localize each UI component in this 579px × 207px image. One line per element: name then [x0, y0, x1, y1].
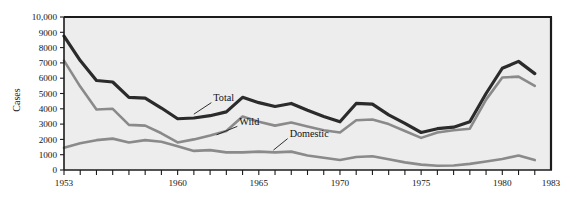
- y-axis-title-group: Cases: [11, 88, 22, 111]
- series-label-total: Total: [213, 92, 234, 103]
- series-label-domestic: Domestic: [290, 128, 330, 139]
- y-tick-label-10000: 10,000: [32, 12, 58, 22]
- x-tick-label-1960: 1960: [168, 178, 187, 188]
- x-tick-label-1970: 1970: [331, 178, 350, 188]
- y-tick-label-8000: 8000: [39, 43, 58, 53]
- y-axis-labels-group: 010002000300040005000600070008000900010,…: [32, 12, 58, 175]
- y-tick-label-3000: 3000: [39, 119, 58, 129]
- y-tick-label-2000: 2000: [39, 135, 58, 145]
- chart-figure: 010002000300040005000600070008000900010,…: [0, 0, 579, 207]
- y-tick-label-7000: 7000: [39, 58, 58, 68]
- plot-background-group: [64, 17, 552, 170]
- y-axis-title: Cases: [11, 88, 22, 111]
- y-tick-label-5000: 5000: [39, 89, 58, 99]
- y-tick-label-9000: 9000: [39, 28, 58, 38]
- plot-area-background: [64, 17, 552, 170]
- y-tick-label-4000: 4000: [39, 104, 58, 114]
- series-label-wild: Wild: [239, 116, 259, 127]
- x-tick-label-1965: 1965: [250, 178, 269, 188]
- y-tick-label-0: 0: [52, 165, 57, 175]
- rabies-cases-line-chart: 010002000300040005000600070008000900010,…: [0, 0, 579, 207]
- x-axis-labels-group: 1953196019651970197519801983: [55, 178, 561, 188]
- x-tick-label-1953: 1953: [55, 178, 74, 188]
- x-tick-label-1975: 1975: [412, 178, 431, 188]
- y-tick-label-1000: 1000: [39, 150, 58, 160]
- y-tick-label-6000: 6000: [39, 73, 58, 83]
- x-tick-label-1980: 1980: [493, 178, 512, 188]
- x-tick-label-1983: 1983: [542, 178, 561, 188]
